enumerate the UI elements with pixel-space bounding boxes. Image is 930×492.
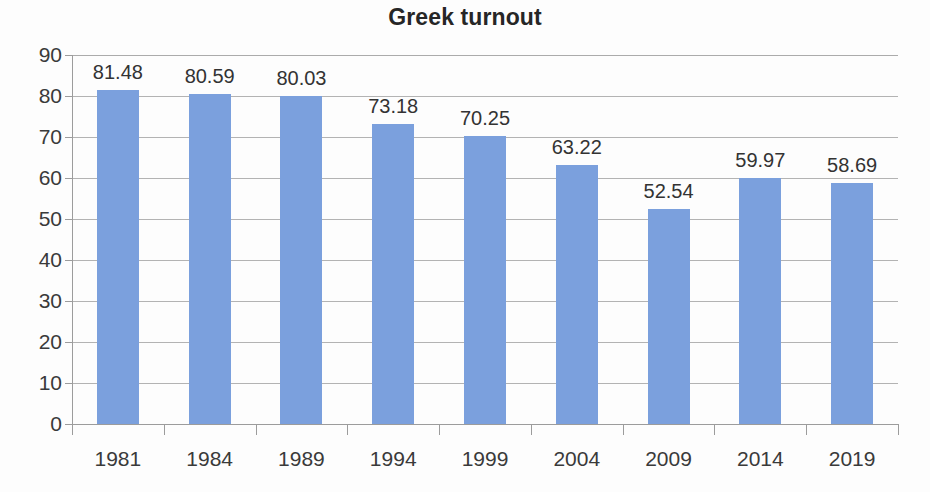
x-axis-tick-label: 2019 (806, 447, 898, 471)
bar-value-label: 63.22 (531, 136, 623, 159)
bar[interactable] (831, 183, 873, 424)
bar-value-label: 59.97 (714, 149, 806, 172)
y-axis-tick-label: 70 (6, 125, 62, 149)
y-axis-tick-label: 90 (6, 43, 62, 67)
bar-value-label: 73.18 (347, 95, 439, 118)
y-axis-tick-label: 10 (6, 371, 62, 395)
y-axis-tick (65, 137, 73, 138)
y-axis-tick (65, 219, 73, 220)
x-axis-tick-label: 2009 (623, 447, 715, 471)
x-axis-tick (347, 424, 348, 435)
y-axis-tick-label: 60 (6, 166, 62, 190)
y-axis-line (72, 55, 73, 425)
chart-title: Greek turnout (0, 4, 930, 31)
x-axis-tick (72, 424, 73, 435)
x-axis-tick (531, 424, 532, 435)
x-axis-tick (256, 424, 257, 435)
x-axis-tick (439, 424, 440, 435)
bar[interactable] (464, 136, 506, 424)
x-axis-tick-label: 1989 (255, 447, 347, 471)
bar-value-label: 80.03 (255, 67, 347, 90)
x-axis-tick-label: 1984 (164, 447, 256, 471)
x-axis-tick (806, 424, 807, 435)
bar[interactable] (739, 178, 781, 424)
y-axis-tick-label: 0 (6, 412, 62, 436)
x-axis-tick (898, 424, 899, 435)
x-axis-tick (623, 424, 624, 435)
y-axis-tick (65, 424, 73, 425)
x-axis-tick (164, 424, 165, 435)
y-axis-tick (65, 260, 73, 261)
x-axis-tick-label: 2014 (714, 447, 806, 471)
bar[interactable] (280, 96, 322, 424)
y-axis-tick-label: 50 (6, 207, 62, 231)
bar-value-label: 70.25 (439, 107, 531, 130)
bar-value-label: 52.54 (623, 180, 715, 203)
x-axis-tick-label: 2004 (531, 447, 623, 471)
bar[interactable] (556, 165, 598, 424)
bar[interactable] (189, 94, 231, 424)
y-axis-tick (65, 301, 73, 302)
y-axis-tick (65, 383, 73, 384)
y-axis-tick-label: 80 (6, 84, 62, 108)
y-axis-tick (65, 55, 73, 56)
bar-value-label: 80.59 (164, 65, 256, 88)
y-axis-tick (65, 178, 73, 179)
y-axis-tick-label: 40 (6, 248, 62, 272)
x-axis-tick (714, 424, 715, 435)
x-axis-tick-label: 1981 (72, 447, 164, 471)
y-axis-tick-label: 30 (6, 289, 62, 313)
y-axis-tick (65, 96, 73, 97)
x-axis-tick-label: 1999 (439, 447, 531, 471)
bar[interactable] (648, 209, 690, 424)
bar[interactable] (372, 124, 414, 424)
bar[interactable] (97, 90, 139, 424)
y-axis-tick (65, 342, 73, 343)
bar-value-label: 58.69 (806, 154, 898, 177)
bar-chart: Greek turnout 0102030405060708090 198119… (0, 0, 930, 492)
y-axis-tick-label: 20 (6, 330, 62, 354)
gridline (72, 55, 898, 56)
x-axis-tick-label: 1994 (347, 447, 439, 471)
x-axis-line (72, 424, 899, 425)
y-axis-labels: 0102030405060708090 (0, 0, 62, 492)
bar-value-label: 81.48 (72, 61, 164, 84)
